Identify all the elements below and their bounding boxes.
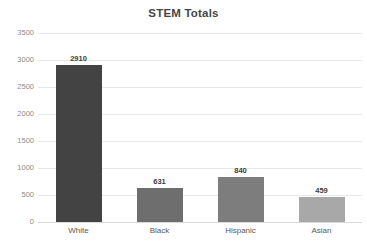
x-axis-category-label: Asian: [281, 226, 362, 236]
y-axis-tick-label: 2500: [0, 83, 34, 91]
bar-hispanic[interactable]: [218, 177, 264, 222]
bar-value-label: 631: [136, 177, 184, 186]
bar-value-label: 459: [298, 186, 346, 195]
y-axis-tick-label: 3000: [0, 56, 34, 64]
y-axis: 0500100015002000250030003500: [0, 33, 34, 222]
y-axis-tick-label: 2000: [0, 110, 34, 118]
y-axis-tick-label: 1000: [0, 164, 34, 172]
gridline: [38, 33, 362, 34]
bar-value-label: 2910: [55, 54, 103, 63]
y-axis-tick-label: 500: [0, 191, 34, 199]
y-axis-tick-label: 3500: [0, 29, 34, 37]
axis-baseline: [38, 222, 362, 223]
bar-asian[interactable]: [299, 197, 345, 222]
bar-value-label: 840: [217, 166, 265, 175]
x-axis-category-label: Black: [119, 226, 200, 236]
x-axis: WhiteBlackHispanicAsian: [38, 226, 362, 240]
chart-title: STEM Totals: [0, 7, 367, 19]
bar-chart: STEM Totals 0500100015002000250030003500…: [0, 0, 367, 245]
bar-white[interactable]: [56, 65, 102, 222]
x-axis-category-label: White: [38, 226, 119, 236]
y-axis-tick-label: 1500: [0, 137, 34, 145]
y-axis-tick-label: 0: [0, 218, 34, 226]
bar-black[interactable]: [137, 188, 183, 222]
plot-area: 2910631840459: [38, 33, 362, 222]
x-axis-category-label: Hispanic: [200, 226, 281, 236]
